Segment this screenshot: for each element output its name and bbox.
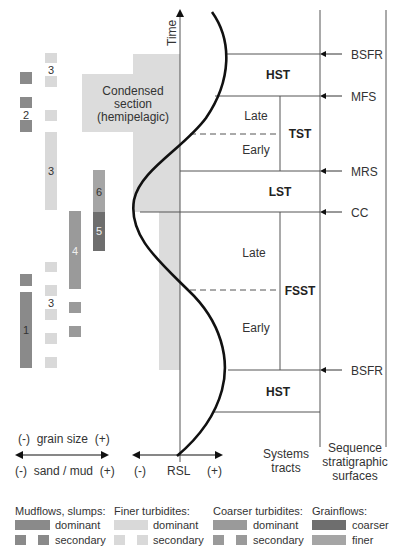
- legend-grainflows-finer: finer: [352, 534, 374, 546]
- rsl-minus: (-): [134, 464, 146, 478]
- legend-coarser-title: Coarser turbidites:: [213, 505, 303, 517]
- legend-grainflows-coarser: coarser: [352, 519, 389, 531]
- legend-mudflows-secondary: secondary: [55, 534, 106, 546]
- deposit-label-3: 3: [48, 64, 54, 76]
- tract-hst-bottom: HST: [266, 385, 291, 399]
- surface-bsfr-bottom: BSFR: [351, 364, 383, 378]
- tract-tst-early: Early: [242, 143, 269, 157]
- deposit-label-3: 3: [48, 165, 54, 177]
- tract-fsst: FSST: [285, 284, 316, 298]
- legend-grainflows-title: Grainflows:: [312, 505, 367, 517]
- legend: Mudflows, slumps: dominant secondary Fin…: [15, 505, 389, 546]
- surface-mrs: MRS: [351, 165, 378, 179]
- sequence-stratigraphy-diagram: 3 2 3 6 5 4 3 1 Condensed section (hemip…: [0, 0, 396, 551]
- surface-arrows: [320, 51, 342, 373]
- deposit-label-5: 5: [96, 225, 102, 237]
- deposit-label-6: 6: [96, 186, 102, 198]
- tract-hst-top: HST: [266, 68, 291, 82]
- rsl-plus: (+): [207, 464, 222, 478]
- coarser-turbidites-column: [69, 211, 81, 337]
- legend-mudflows-dominant: dominant: [55, 519, 100, 531]
- time-axis-label: Time: [165, 19, 179, 46]
- legend-finer-dominant: dominant: [153, 519, 198, 531]
- surface-bsfr-top: BSFR: [351, 48, 383, 62]
- legend-mudflows-title: Mudflows, slumps:: [15, 505, 105, 517]
- deposit-label-4: 4: [72, 245, 78, 257]
- rsl-label: RSL: [167, 464, 191, 478]
- legend-coarser-dominant: dominant: [253, 519, 298, 531]
- surfaces-header: surfaces: [332, 469, 377, 483]
- systems-tracts-header: Systems: [263, 447, 309, 461]
- deposit-label-1: 1: [23, 324, 29, 336]
- surface-mfs: MFS: [351, 90, 376, 104]
- rsl-arrow: [132, 451, 223, 459]
- deposit-label-2: 2: [23, 109, 29, 121]
- surface-cc: CC: [351, 206, 369, 220]
- tract-tst: TST: [289, 127, 312, 141]
- sand-mud-label: (-) sand / mud (+): [15, 464, 115, 478]
- condensed-section-label: section: [114, 97, 152, 111]
- legend-finer-secondary: secondary: [153, 534, 204, 546]
- condensed-section-label: (hemipelagic): [97, 110, 169, 124]
- tract-fsst-late: Late: [242, 246, 266, 260]
- grain-size-arrow: [15, 451, 109, 459]
- surfaces-header: stratigraphic: [322, 455, 387, 469]
- tract-lst: LST: [269, 185, 292, 199]
- tract-tst-late: Late: [244, 109, 268, 123]
- legend-finer-title: Finer turbidites:: [114, 505, 190, 517]
- grain-size-label: (-) grain size (+): [18, 432, 110, 446]
- legend-coarser-secondary: secondary: [253, 534, 304, 546]
- systems-tracts-header: tracts: [271, 461, 300, 475]
- finer-turbidites-column: [45, 53, 57, 368]
- deposit-label-3: 3: [48, 297, 54, 309]
- surfaces-header: Sequence: [328, 441, 382, 455]
- condensed-section-label: Condensed: [102, 84, 163, 98]
- tract-fsst-early: Early: [242, 321, 269, 335]
- grainflows-column: [93, 170, 105, 251]
